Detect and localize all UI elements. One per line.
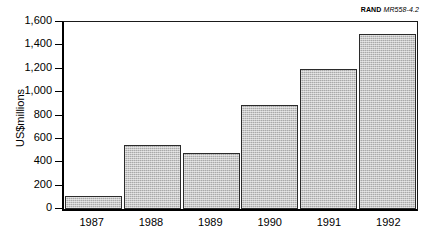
credit-code: MR558-4.2 [383, 6, 419, 13]
y-axis-tick [55, 115, 62, 116]
bar-slot [358, 22, 417, 209]
y-tick-label: 0 [0, 202, 52, 213]
x-tick-label: 1990 [240, 216, 299, 229]
credit-org: RAND [361, 6, 382, 13]
bar-1990 [241, 105, 298, 209]
x-axis-tick-labels: 1987 1988 1989 1990 1991 1992 [62, 216, 418, 229]
y-tick-label: 600 [0, 132, 52, 143]
y-tick-label: 1,600 [0, 15, 52, 26]
bar-chart-figure: RAND MR558-4.2 US$millions 02 [0, 0, 430, 244]
y-axis-tick [55, 21, 62, 22]
y-tick-label: 1,000 [0, 85, 52, 96]
bar-1991 [300, 69, 357, 209]
bar-slot [64, 22, 123, 209]
plot-area [62, 21, 418, 211]
y-tick-label: 1,400 [0, 38, 52, 49]
bars-container [64, 22, 417, 209]
y-axis-tick [55, 185, 62, 186]
y-tick-label: 200 [0, 179, 52, 190]
bar-slot [299, 22, 358, 209]
bar-slot [123, 22, 182, 209]
x-tick-label: 1989 [181, 216, 240, 229]
y-tick-label: 800 [0, 109, 52, 120]
y-axis-tick [55, 208, 62, 209]
y-tick-label: 400 [0, 155, 52, 166]
x-tick-label: 1988 [121, 216, 180, 229]
bar-slot [182, 22, 241, 209]
bar-1988 [124, 145, 181, 209]
bar-1989 [183, 153, 240, 209]
x-tick-label: 1991 [299, 216, 358, 229]
rand-credit-line: RAND MR558-4.2 [361, 5, 419, 14]
x-tick-label: 1987 [62, 216, 121, 229]
bar-slot [240, 22, 299, 209]
y-axis-tick [55, 68, 62, 69]
y-axis-tick [55, 161, 62, 162]
bar-1987 [65, 196, 122, 209]
x-tick-label: 1992 [359, 216, 418, 229]
y-axis-tick [55, 91, 62, 92]
y-axis-tick [55, 44, 62, 45]
y-axis-tick [55, 138, 62, 139]
bar-1992 [359, 34, 416, 209]
y-tick-label: 1,200 [0, 62, 52, 73]
